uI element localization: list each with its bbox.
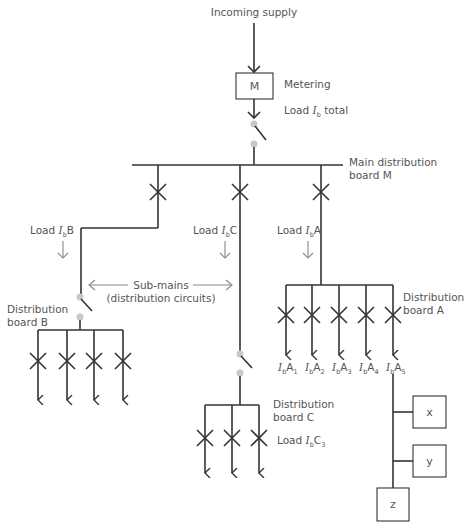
board-c-circuits xyxy=(197,405,267,473)
meter: M Metering xyxy=(236,73,331,99)
board-b-label-2: board B xyxy=(7,316,48,328)
board-c-label-2: board C xyxy=(273,411,314,423)
load-a-arrow-icon xyxy=(303,241,313,258)
load-y-label: y xyxy=(426,455,433,468)
load-z-label: z xyxy=(390,498,396,511)
final-circuit-a4 xyxy=(358,285,374,355)
final-circuit-c3 xyxy=(251,405,267,473)
final-circuit-b3 xyxy=(86,330,102,400)
final-circuit-a1 xyxy=(278,285,294,355)
load-b-arrow-icon xyxy=(58,241,68,258)
load-c3-label: Load IbC3 xyxy=(277,434,325,449)
board-a-circuit-labels: IbA1 IbA2 IbA3 IbA4 IbA5 xyxy=(277,361,406,376)
load-b-label: Load IbB xyxy=(30,224,74,239)
main-isolator-switch-icon xyxy=(251,121,267,148)
board-b-circuits xyxy=(30,330,131,400)
final-circuit-b4 xyxy=(115,330,131,400)
final-loads-a5: x y z xyxy=(377,374,446,521)
meter-symbol: M xyxy=(250,80,260,93)
feeder-b xyxy=(81,165,166,295)
circuit-a5-label: IbA5 xyxy=(385,361,406,376)
distribution-diagram: Incoming supply M Metering Load Ib total… xyxy=(0,0,464,528)
load-a-label: Load IbA xyxy=(277,224,322,239)
circuit-a2-label: IbA2 xyxy=(304,361,325,376)
load-x-label: x xyxy=(426,406,433,419)
final-circuit-a5 xyxy=(385,285,401,355)
metering-label: Metering xyxy=(284,78,331,90)
circuit-a3-label: IbA3 xyxy=(331,361,352,376)
final-circuit-c2 xyxy=(224,405,240,473)
board-c-isolator-switch-icon xyxy=(237,351,253,377)
total-load-label: Load Ib total xyxy=(284,104,348,119)
board-b-isolator-switch-icon xyxy=(77,294,93,321)
submains-label-1: Sub-mains xyxy=(133,279,188,291)
board-a-label-1: Distribution xyxy=(403,291,464,303)
load-c-label: Load IbC xyxy=(193,224,237,239)
final-circuit-a2 xyxy=(304,285,320,355)
circuit-a1-label: IbA1 xyxy=(277,361,298,376)
final-circuit-a3 xyxy=(331,285,347,355)
incoming-supply-label: Incoming supply xyxy=(211,6,297,18)
board-c-label-1: Distribution xyxy=(273,398,334,410)
board-a-label-2: board A xyxy=(403,304,445,316)
main-board-label-2: board M xyxy=(349,169,392,181)
board-a-circuits xyxy=(278,285,401,355)
load-c-arrow-icon xyxy=(220,241,230,258)
board-b-label-1: Distribution xyxy=(7,303,68,315)
final-circuit-b2 xyxy=(59,330,75,400)
submains-annotation: Sub-mains (distribution circuits) xyxy=(89,279,232,304)
final-circuit-c1 xyxy=(197,405,213,473)
circuit-a4-label: IbA4 xyxy=(358,361,379,376)
feeder-c xyxy=(232,165,248,352)
final-circuit-b1 xyxy=(30,330,46,400)
incoming-supply: Incoming supply xyxy=(211,6,297,72)
submains-label-2: (distribution circuits) xyxy=(106,292,215,304)
main-board-label-1: Main distribution xyxy=(349,156,437,168)
